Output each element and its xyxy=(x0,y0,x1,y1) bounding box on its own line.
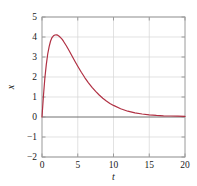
x-tick-label: 15 xyxy=(145,160,155,170)
y-tick-label: 0 xyxy=(32,112,37,122)
y-tick-label: 3 xyxy=(32,52,37,62)
x-axis-title: t xyxy=(112,171,115,182)
x-tick-label: 0 xyxy=(40,160,45,170)
y-tick-label: −2 xyxy=(27,152,37,162)
x-tick-label: 5 xyxy=(75,160,80,170)
x-tick-label: 10 xyxy=(109,160,119,170)
y-tick-label: 2 xyxy=(32,72,37,82)
y-tick-label: −1 xyxy=(27,132,37,142)
chart-figure: 05101520 −2−1012345 t x xyxy=(0,0,197,186)
y-tick-label: 5 xyxy=(32,12,37,22)
y-tick-label: 1 xyxy=(32,92,37,102)
chart-plot-svg: 05101520 −2−1012345 t x xyxy=(0,0,197,186)
x-tick-label: 20 xyxy=(180,160,190,170)
y-axis-title: x xyxy=(5,84,16,90)
y-tick-label: 4 xyxy=(32,32,37,42)
